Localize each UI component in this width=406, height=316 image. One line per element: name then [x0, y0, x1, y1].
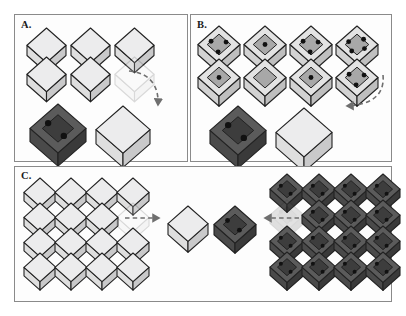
closed-light-box: [116, 227, 150, 252]
box: [26, 27, 67, 57]
open-light-box: [243, 25, 287, 59]
open-dark-box: [365, 251, 401, 278]
open-dark-box: [269, 173, 305, 200]
panel-c: C.: [14, 166, 392, 302]
closed-light-box: [85, 227, 119, 252]
closed-light-box: [85, 202, 119, 227]
closed-light-box: [116, 252, 150, 277]
closed-light-box: [85, 252, 119, 277]
open-dark-box: [365, 199, 401, 226]
closed-light-box: [116, 177, 150, 202]
open-light-box: [289, 58, 333, 92]
dark-open-box-a: [29, 103, 87, 147]
open-dark-box: [333, 225, 369, 252]
open-dark-box: [269, 251, 305, 278]
dark-open-box-b: [209, 105, 267, 149]
box: [70, 56, 111, 86]
arrow-c-right: [255, 211, 301, 225]
closed-light-box: [54, 177, 88, 202]
arrow-c-left: [123, 211, 169, 225]
panel-b: B.: [190, 14, 392, 162]
closed-light-box: [54, 202, 88, 227]
open-dark-box: [365, 173, 401, 200]
open-dark-box: [301, 251, 337, 278]
dark-open-box-c: [213, 205, 257, 239]
open-dark-box: [333, 173, 369, 200]
open-light-box: [335, 25, 379, 59]
open-light-box: [243, 58, 287, 92]
closed-light-box: [23, 252, 57, 277]
open-dark-box: [301, 199, 337, 226]
closed-light-box: [23, 227, 57, 252]
open-dark-box: [333, 199, 369, 226]
arrow-b: [339, 73, 391, 119]
light-closed-box-c: [167, 205, 209, 237]
open-light-box: [197, 58, 241, 92]
open-light-box: [197, 25, 241, 59]
closed-light-box: [54, 252, 88, 277]
open-dark-box: [365, 225, 401, 252]
figure-canvas: A. B. C.: [0, 0, 406, 316]
open-dark-box: [333, 251, 369, 278]
open-dark-box: [269, 225, 305, 252]
closed-light-box: [23, 202, 57, 227]
arrow-a: [125, 67, 171, 119]
open-light-box: [289, 25, 333, 59]
closed-light-box: [85, 177, 119, 202]
box: [26, 56, 67, 86]
closed-light-box: [54, 227, 88, 252]
box: [70, 27, 111, 57]
light-closed-box-b: [275, 107, 333, 151]
closed-light-box: [23, 177, 57, 202]
box: [114, 27, 155, 57]
panel-a: A.: [14, 14, 188, 162]
open-dark-box: [301, 173, 337, 200]
open-dark-box: [301, 225, 337, 252]
